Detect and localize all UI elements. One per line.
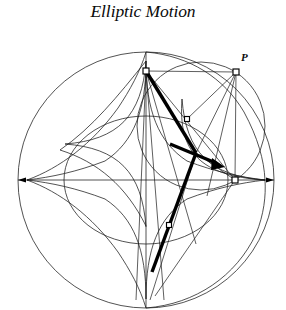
marker-point-p [233,69,239,75]
marker-rod-axis-right [232,177,238,183]
marker-rod-lower-mid [167,223,172,228]
astroid-branch-left-upper [65,61,146,227]
astroid-quadrant-tl [27,61,146,180]
ray-axis-right-to-bottom [155,180,235,296]
astroid-lobe-upper-right [182,99,265,180]
ray-top-to-p [146,71,236,72]
axis-tick-right [266,177,274,182]
marker-rod-upper-mid [185,117,190,122]
rod-upper-segment [146,71,196,153]
elliptic-motion-figure: Elliptic Motion [0,0,286,310]
ray-p-to-pivot [196,72,236,153]
ray-top-to-bottom-left [136,71,146,300]
point-label-p: P [241,51,248,63]
marker-rod-top-end [143,68,149,74]
axis-tick-left [18,177,26,182]
rod-arrowhead [211,158,225,170]
rolling-circle [137,62,265,190]
geometry-canvas [0,0,286,310]
arc-left-to-bottom [27,180,146,308]
rod-lower-segment [152,153,196,272]
ray-p-to-upper-mid [187,72,236,119]
arc-left-to-top [27,52,146,180]
astroid-quadrant-tr [146,61,265,180]
